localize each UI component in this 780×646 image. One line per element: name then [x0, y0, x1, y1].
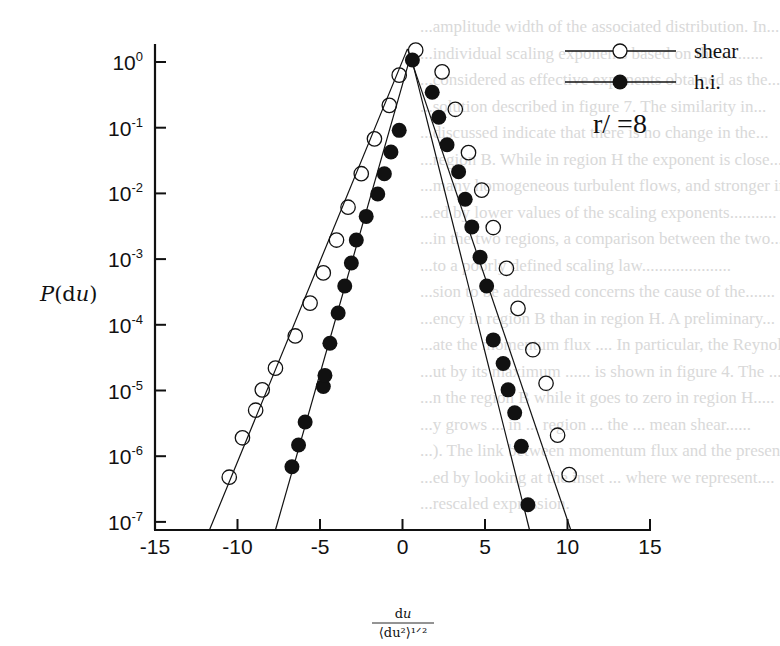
legend: shear h.i. r/ =8: [565, 39, 738, 139]
hi-marker-filled-circle-icon: [331, 305, 346, 320]
shear-marker-open-circle-icon: [448, 102, 462, 116]
hi-marker-filled-circle-icon: [479, 279, 494, 294]
shear-marker-open-circle-icon: [255, 383, 269, 397]
x-tick-label: 5: [479, 535, 491, 558]
hi-marker-filled-circle-icon: [520, 497, 535, 512]
shear-marker-open-circle-icon: [435, 65, 449, 79]
hi-marker-filled-circle-icon: [349, 233, 364, 248]
hi-marker-filled-circle-icon: [431, 110, 446, 125]
hi-marker-filled-circle-icon: [284, 459, 299, 474]
hi-marker-filled-circle-icon: [458, 192, 473, 207]
y-tick-label: 10-6: [108, 443, 143, 468]
shear-marker-open-circle-icon: [303, 296, 317, 310]
legend-shear-label: shear: [694, 39, 738, 63]
hi-marker-filled-circle-icon: [322, 336, 337, 351]
hi-marker-filled-circle-icon: [383, 145, 398, 160]
shear-marker-open-circle-icon: [550, 428, 564, 442]
y-tick-label: 100: [112, 49, 143, 74]
shear-marker-open-circle-icon: [341, 200, 355, 214]
legend-filled-circle-icon: [613, 75, 628, 90]
hi-marker-filled-circle-icon: [377, 166, 392, 181]
shear-marker-open-circle-icon: [316, 266, 330, 280]
y-tick-label: 10-4: [108, 312, 143, 337]
shear-marker-open-circle-icon: [382, 98, 396, 112]
x-axis-label: du ⟨du²⟩¹ᐟ²: [372, 606, 434, 640]
y-tick-label: 10-3: [108, 246, 143, 271]
fit-lines: [209, 49, 570, 530]
x-tick-label: -15: [140, 535, 170, 558]
y-tick-label: 10-7: [108, 509, 143, 534]
x-tick-label: -10: [222, 535, 252, 558]
shear-marker-open-circle-icon: [562, 467, 576, 481]
hi-marker-filled-circle-icon: [317, 368, 332, 383]
shear-marker-open-circle-icon: [475, 183, 489, 197]
hi-marker-filled-circle-icon: [425, 85, 440, 100]
legend-open-circle-icon: [613, 44, 627, 58]
shear-marker-open-circle-icon: [367, 132, 381, 146]
shear-marker-open-circle-icon: [329, 233, 343, 247]
data-markers: [222, 43, 576, 512]
hi-marker-filled-circle-icon: [359, 209, 374, 224]
x-tick-label: 0: [397, 535, 409, 558]
shear-marker-open-circle-icon: [268, 361, 282, 375]
svg-text:⟨du²⟩¹ᐟ²: ⟨du²⟩¹ᐟ²: [379, 625, 427, 640]
x-tick-label: 10: [556, 535, 579, 558]
hi-marker-filled-circle-icon: [464, 219, 479, 234]
hi-marker-filled-circle-icon: [370, 187, 385, 202]
hi-marker-filled-circle-icon: [507, 405, 522, 420]
y-tick-label: 10-5: [108, 378, 143, 403]
legend-hi-label: h.i.: [694, 70, 721, 94]
shear-marker-open-circle-icon: [392, 68, 406, 82]
x-tick-label: 15: [638, 535, 661, 558]
shear-marker-open-circle-icon: [461, 145, 475, 159]
shear-marker-open-circle-icon: [248, 403, 262, 417]
fit-line-hi_right: [411, 55, 530, 530]
hi-marker-filled-circle-icon: [298, 415, 313, 430]
hi-marker-filled-circle-icon: [473, 250, 488, 265]
hi-marker-filled-circle-icon: [496, 356, 511, 371]
axes: 10010-110-210-310-410-510-610-7-15-10-50…: [108, 44, 662, 558]
hi-marker-filled-circle-icon: [291, 438, 306, 453]
hi-marker-filled-circle-icon: [337, 279, 352, 294]
shear-marker-open-circle-icon: [511, 301, 525, 315]
hi-marker-filled-circle-icon: [451, 164, 466, 179]
y-axis-label: P(du): [39, 282, 98, 306]
y-tick-label: 10-1: [108, 115, 143, 140]
hi-marker-filled-circle-icon: [486, 332, 501, 347]
hi-marker-filled-circle-icon: [344, 256, 359, 271]
hi-marker-filled-circle-icon: [392, 123, 407, 138]
y-tick-label: 10-2: [108, 180, 143, 205]
hi-marker-filled-circle-icon: [514, 439, 529, 454]
svg-text:du: du: [395, 606, 412, 621]
shear-marker-open-circle-icon: [539, 376, 553, 390]
x-tick-label: -5: [311, 535, 330, 558]
hi-marker-filled-circle-icon: [440, 137, 455, 152]
parameter-annotation: r/ =8: [593, 108, 647, 139]
shear-marker-open-circle-icon: [354, 166, 368, 180]
shear-marker-open-circle-icon: [486, 220, 500, 234]
fit-line-shear_left: [209, 49, 407, 530]
shear-marker-open-circle-icon: [288, 329, 302, 343]
hi-marker-filled-circle-icon: [405, 53, 420, 68]
shear-marker-open-circle-icon: [499, 261, 513, 275]
shear-marker-open-circle-icon: [526, 343, 540, 357]
shear-marker-open-circle-icon: [222, 470, 236, 484]
shear-marker-open-circle-icon: [235, 431, 249, 445]
hi-marker-filled-circle-icon: [501, 382, 516, 397]
